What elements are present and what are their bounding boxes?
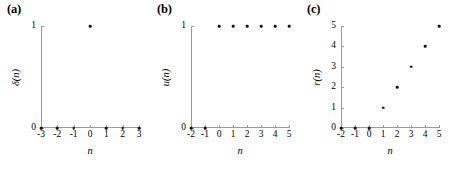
panel-b-y-axis-label: u(n) — [159, 26, 173, 128]
panel-c-y-tick — [341, 26, 344, 27]
panel-b-x-tick-label: 1 — [231, 130, 236, 140]
panel-a-x-tick-label: -3 — [37, 130, 45, 140]
panel-b-data-point — [232, 25, 235, 28]
panel-a-y-tick-label: 0 — [31, 123, 36, 133]
panel-b-plot-area: -2-101234501 — [191, 26, 289, 128]
panel-a-x-tick-label: -2 — [53, 130, 61, 140]
panel-b-data-point — [190, 127, 193, 130]
figure-container: (a) δ(n) -3-2-1012301 n (b) u(n) -2-1012… — [0, 0, 451, 171]
panel-a-x-tick-label: 2 — [120, 130, 125, 140]
panel-b-x-tick-label: 5 — [287, 130, 292, 140]
panel-b-x-tick-label: 0 — [217, 130, 222, 140]
panel-a-y-axis-label-text: δ(n) — [11, 68, 22, 85]
panel-a-data-point — [105, 127, 108, 130]
panel-a-y-axis — [41, 26, 42, 128]
panel-a-data-point — [121, 127, 124, 130]
panel-c-plot-area: -2-1012345012345 — [341, 26, 439, 128]
panel-b-y-tick — [191, 26, 194, 27]
panel-c-data-point — [410, 66, 413, 69]
panel-c-y-tick-label: 4 — [331, 42, 336, 52]
panel-b-x-tick — [247, 125, 248, 128]
panel-c-data-point — [368, 127, 371, 130]
panel-c-y-tick-label: 1 — [331, 103, 336, 113]
panel-c-x-tick-label: 4 — [423, 130, 428, 140]
panel-c-y-axis — [341, 26, 342, 128]
panel-c-y-tick — [341, 46, 344, 47]
panel-b-x-tick-label: -2 — [187, 130, 195, 140]
panel-c-x-tick — [383, 125, 384, 128]
panel-a-data-point — [138, 127, 141, 130]
panel-c-x-tick-label: 5 — [437, 130, 442, 140]
panel-c-y-tick-label: 5 — [331, 21, 336, 31]
panel-b-x-tick — [261, 125, 262, 128]
panel-a-x-tick-label: 0 — [88, 130, 93, 140]
panel-b-y-tick-label: 1 — [181, 21, 186, 31]
panel-c-x-tick-label: -2 — [337, 130, 345, 140]
panel-b-data-point — [274, 25, 277, 28]
panel-b-data-point — [288, 25, 291, 28]
panel-c-y-axis-label-text: r(n) — [311, 69, 322, 85]
panel-a-x-tick — [90, 125, 91, 128]
panel-b-data-point — [218, 25, 221, 28]
panel-a-y-tick — [41, 26, 44, 27]
panel-a-data-point — [40, 127, 43, 130]
panel-c-y-tick — [341, 108, 344, 109]
panel-c-x-tick-label: 0 — [367, 130, 372, 140]
panel-b-x-tick — [233, 125, 234, 128]
panel-c-y-tick-label: 2 — [331, 82, 336, 92]
panel-c-x-tick — [439, 125, 440, 128]
panel-a-data-point — [89, 25, 92, 28]
panel-c-x-axis-label: n — [341, 146, 439, 157]
panel-a-plot-area: -3-2-1012301 — [41, 26, 139, 128]
panel-c-x-tick — [411, 125, 412, 128]
panel-a-label: (a) — [7, 3, 21, 16]
panel-c: (c) r(n) -2-1012345012345 n — [300, 0, 450, 171]
panel-c-data-point — [382, 106, 385, 109]
panel-c-x-tick-label: -1 — [351, 130, 359, 140]
panel-b: (b) u(n) -2-101234501 n — [150, 0, 300, 171]
panel-c-data-point — [424, 45, 427, 48]
panel-b-x-axis-label: n — [191, 146, 289, 157]
panel-c-x-tick-label: 3 — [409, 130, 414, 140]
panel-b-label: (b) — [157, 3, 172, 16]
panel-c-label: (c) — [307, 3, 320, 16]
panel-b-x-tick — [275, 125, 276, 128]
panel-a-data-point — [72, 127, 75, 130]
panel-a-x-tick-label: -1 — [70, 130, 78, 140]
panel-b-y-axis — [191, 26, 192, 128]
panel-b-x-tick — [289, 125, 290, 128]
panel-c-y-tick — [341, 87, 344, 88]
panel-b-data-point — [246, 25, 249, 28]
panel-a-x-tick-label: 1 — [104, 130, 109, 140]
panel-c-x-tick-label: 2 — [395, 130, 400, 140]
panel-a-x-tick-label: 3 — [137, 130, 142, 140]
panel-a-data-point — [56, 127, 59, 130]
panel-c-y-axis-label: r(n) — [309, 26, 323, 128]
panel-c-x-tick — [425, 125, 426, 128]
panel-a-y-tick-label: 1 — [31, 21, 36, 31]
panel-b-y-axis-label-text: u(n) — [161, 68, 172, 86]
panel-b-data-point — [204, 127, 207, 130]
panel-a-y-axis-label: δ(n) — [9, 26, 23, 128]
panel-c-y-tick — [341, 67, 344, 68]
panel-c-y-tick-label: 0 — [331, 123, 336, 133]
panel-b-x-tick-label: -1 — [201, 130, 209, 140]
panel-c-y-tick-label: 3 — [331, 62, 336, 72]
panel-c-x-tick — [397, 125, 398, 128]
panel-b-x-tick — [219, 125, 220, 128]
panel-b-y-tick-label: 0 — [181, 123, 186, 133]
panel-b-data-point — [260, 25, 263, 28]
panel-b-x-tick-label: 3 — [259, 130, 264, 140]
panel-c-data-point — [340, 127, 343, 130]
panel-c-data-point — [438, 25, 441, 28]
panel-c-data-point — [396, 86, 399, 89]
panel-c-x-tick-label: 1 — [381, 130, 386, 140]
panel-c-data-point — [354, 127, 357, 130]
panel-a-x-axis-label: n — [41, 146, 139, 157]
panel-a: (a) δ(n) -3-2-1012301 n — [0, 0, 150, 171]
panel-b-x-tick-label: 2 — [245, 130, 250, 140]
panel-b-x-tick-label: 4 — [273, 130, 278, 140]
